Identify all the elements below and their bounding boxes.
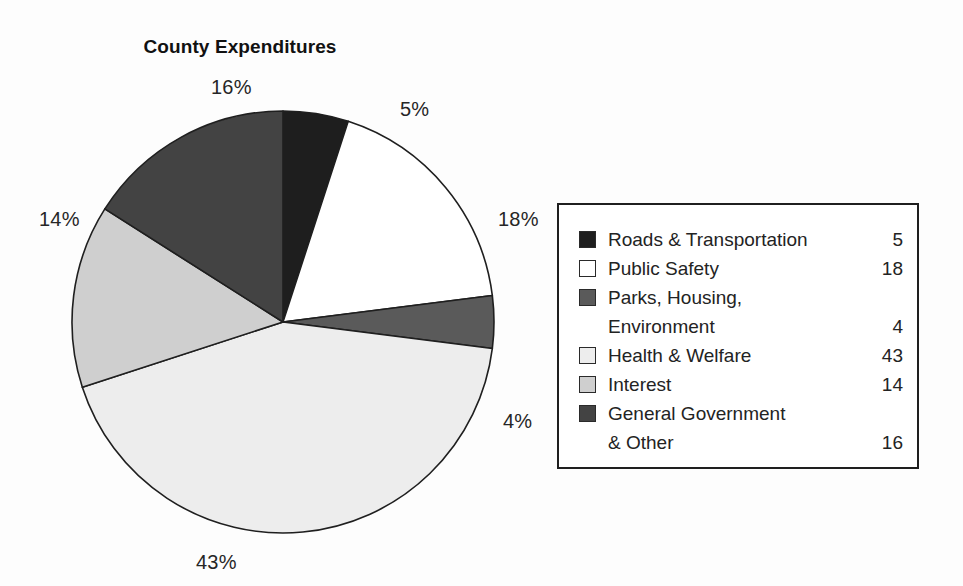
legend-swatch-health xyxy=(579,347,596,364)
legend-row[interactable]: Interest14 xyxy=(579,372,903,401)
legend-label: General Government xyxy=(608,401,869,427)
slice-label-parks: 4% xyxy=(503,410,532,433)
legend-row[interactable]: Public Safety18 xyxy=(579,256,903,285)
legend-row[interactable]: General Government xyxy=(579,401,903,430)
legend-label: Parks, Housing, xyxy=(608,285,869,311)
legend-value: 14 xyxy=(869,372,903,398)
legend-value: 4 xyxy=(869,314,903,340)
slice-label-interest: 14% xyxy=(39,208,80,231)
pie-slices xyxy=(72,111,494,533)
slice-label-roads: 5% xyxy=(400,98,429,121)
legend-label: Roads & Transportation xyxy=(608,227,869,253)
legend-value: 43 xyxy=(869,343,903,369)
legend-row[interactable]: & Other16 xyxy=(579,430,903,459)
legend-swatch-parks xyxy=(579,289,596,306)
legend-swatch-roads xyxy=(579,231,596,248)
legend-row[interactable]: Roads & Transportation5 xyxy=(579,227,903,256)
legend-swatch-general-government xyxy=(579,405,596,422)
legend-box: Roads & Transportation5Public Safety18Pa… xyxy=(557,203,919,469)
legend-label: Environment xyxy=(608,314,869,340)
legend-list: Roads & Transportation5Public Safety18Pa… xyxy=(579,227,903,459)
legend-label: Public Safety xyxy=(608,256,869,282)
legend-row[interactable]: Environment4 xyxy=(579,314,903,343)
legend-label: Interest xyxy=(608,372,869,398)
legend-row[interactable]: Health & Welfare43 xyxy=(579,343,903,372)
slice-label-health: 43% xyxy=(196,551,237,574)
slice-label-public-safety: 18% xyxy=(498,208,539,231)
slice-label-general-government: 16% xyxy=(211,76,252,99)
legend-swatch-parks-cont xyxy=(579,318,596,335)
legend-value: 16 xyxy=(869,430,903,456)
legend-value: 18 xyxy=(869,256,903,282)
legend-swatch-interest xyxy=(579,376,596,393)
chart-canvas: County Expenditures 5% 18% 4% 43% 14% 16… xyxy=(0,0,963,586)
legend-label: Health & Welfare xyxy=(608,343,869,369)
legend-swatch-general-government-cont xyxy=(579,434,596,451)
legend-label: & Other xyxy=(608,430,869,456)
legend-row[interactable]: Parks, Housing, xyxy=(579,285,903,314)
legend-value: 5 xyxy=(869,227,903,253)
legend-swatch-public-safety xyxy=(579,260,596,277)
